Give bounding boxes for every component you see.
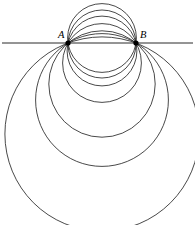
circle-4 [63, 24, 142, 103]
circle-6 [36, 34, 169, 167]
coaxial-circles-figure: A B [0, 0, 195, 225]
circle-2 [68, 10, 136, 78]
figure-container: A B [0, 0, 195, 225]
point-b-label: B [140, 29, 147, 40]
circle-5 [49, 31, 155, 137]
point-a-label: A [57, 29, 65, 40]
point-b-dot [133, 40, 138, 45]
circle-3 [67, 16, 137, 86]
point-a-dot [65, 40, 70, 45]
circle-family [5, 4, 195, 225]
circle-7-largest [5, 37, 195, 225]
